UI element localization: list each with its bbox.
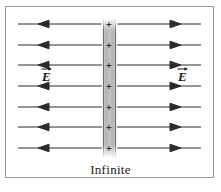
field-line-left [18, 20, 103, 28]
field-line-right [116, 20, 201, 28]
field-line-right [116, 82, 201, 90]
field-lines-left [18, 20, 103, 152]
field-line-right [116, 123, 201, 131]
field-lines-right [116, 20, 201, 152]
field-line-right [116, 103, 201, 111]
field-line-left [18, 41, 103, 49]
sheet-bottom-fade [101, 145, 118, 158]
field-line-left [18, 123, 103, 131]
infinite-charged-sheet [101, 18, 118, 158]
field-line-left [18, 61, 103, 69]
field-line-left [18, 144, 103, 152]
electric-field-sheet-figure: + + + + + + + E E Infinite [0, 0, 221, 192]
sheet-top-fade [101, 18, 118, 31]
figure-canvas [0, 0, 221, 192]
field-line-left [18, 82, 103, 90]
field-line-right [116, 41, 201, 49]
field-line-left [18, 103, 103, 111]
field-line-right [116, 61, 201, 69]
field-line-right [116, 144, 201, 152]
